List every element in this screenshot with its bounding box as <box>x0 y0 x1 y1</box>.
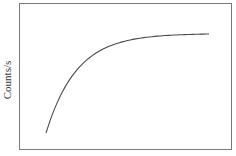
chart <box>0 0 236 156</box>
plot-frame <box>20 4 232 150</box>
y-axis-label: Counts/s <box>0 58 14 102</box>
